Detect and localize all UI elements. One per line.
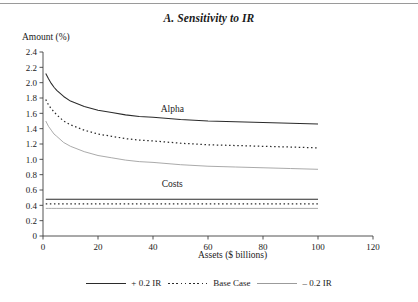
legend-item-1: Base Case	[168, 278, 250, 288]
y-tick-label: 0.2	[26, 216, 37, 226]
legend-swatch-dotted-icon	[168, 279, 208, 287]
y-tick-label: 1.6	[26, 109, 38, 119]
x-tick-label: 20	[94, 242, 104, 252]
y-tick-label: 2.4	[26, 47, 38, 57]
x-tick-label: 100	[311, 242, 325, 252]
legend-swatch-solid-light-icon	[257, 279, 297, 287]
y-tick-label: 0.6	[26, 185, 38, 195]
y-tick-label: 2.0	[26, 78, 38, 88]
chart-series-line	[46, 73, 318, 124]
x-axis-caption: Assets ($ billions)	[198, 250, 267, 260]
x-tick-label: 120	[366, 242, 380, 252]
y-tick-label: 0.8	[26, 170, 38, 180]
y-tick-label: 0	[33, 231, 38, 241]
costs-group-label: Costs	[162, 179, 183, 189]
legend-label-0: + 0.2 IR	[131, 278, 161, 288]
legend-label-1: Base Case	[213, 278, 250, 288]
y-tick-label: 1.2	[26, 139, 37, 149]
legend-item-0: + 0.2 IR	[86, 278, 161, 288]
y-tick-label: 2.2	[26, 63, 37, 73]
y-tick-label: 0.4	[26, 201, 38, 211]
x-tick-label: 40	[149, 242, 159, 252]
y-tick-label: 1.4	[26, 124, 38, 134]
chart-series-line	[46, 121, 318, 169]
y-tick-label: 1.0	[26, 155, 38, 165]
figure-panel: A. Sensitivity to IR Amount (%) 00.20.40…	[0, 0, 418, 302]
legend-swatch-solid-dark-icon	[86, 279, 126, 287]
alpha-group-label: Alpha	[161, 104, 185, 114]
legend-item-2: – 0.2 IR	[257, 278, 331, 288]
x-tick-label: 0	[41, 242, 46, 252]
chart-legend: + 0.2 IR Base Case – 0.2 IR	[0, 278, 418, 288]
legend-label-2: – 0.2 IR	[302, 278, 331, 288]
y-tick-label: 1.8	[26, 93, 38, 103]
